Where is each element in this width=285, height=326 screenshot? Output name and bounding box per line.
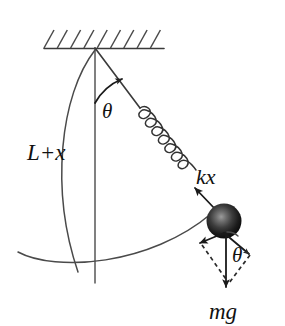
coil-spring <box>139 107 196 170</box>
spring-force-vector <box>195 188 215 209</box>
physics-diagram-canvas: L+x kx mg θ θ <box>0 0 285 326</box>
bob-angle-label: θ <box>232 243 242 267</box>
diagram-svg: L+x kx mg θ θ <box>0 0 285 326</box>
swing-path-arc <box>18 213 212 263</box>
spring-force-label: kx <box>196 164 216 189</box>
weight-label: mg <box>209 299 237 324</box>
ceiling-hatching <box>44 30 160 48</box>
length-brace-arc <box>62 50 95 272</box>
ceiling-support <box>44 30 164 49</box>
pivot-angle-label: θ <box>102 99 112 123</box>
force-decomposition <box>200 232 250 287</box>
length-label: L+x <box>26 140 66 165</box>
spring-coil-path <box>139 107 188 169</box>
parallelogram-side-left <box>202 245 228 282</box>
